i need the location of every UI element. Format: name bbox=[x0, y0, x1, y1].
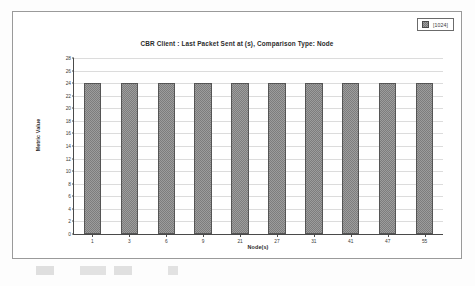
bar[interactable] bbox=[158, 83, 175, 234]
bar[interactable] bbox=[121, 83, 138, 234]
bar[interactable] bbox=[84, 83, 101, 234]
chart-legend[interactable]: [1024] bbox=[417, 18, 454, 31]
plot-area: 0246810121416182022242628 13692127314147… bbox=[73, 58, 443, 235]
chart-title: CBR Client : Last Packet Sent at (s), Co… bbox=[13, 40, 461, 47]
x-tick-mark bbox=[240, 234, 241, 237]
bar[interactable] bbox=[305, 83, 322, 234]
y-tick-label: 4 bbox=[68, 206, 71, 211]
y-tick-label: 0 bbox=[68, 232, 71, 237]
x-tick-mark bbox=[314, 234, 315, 237]
scan-artifact bbox=[28, 266, 208, 275]
legend-entry-label: [1024] bbox=[433, 22, 448, 28]
y-tick-label: 10 bbox=[66, 169, 71, 174]
x-tick-mark bbox=[203, 234, 204, 237]
x-tick-mark bbox=[351, 234, 352, 237]
y-tick-label: 18 bbox=[66, 118, 71, 123]
y-tick-label: 22 bbox=[66, 93, 71, 98]
x-tick-mark bbox=[92, 234, 93, 237]
y-tick-label: 28 bbox=[66, 56, 71, 61]
bar[interactable] bbox=[268, 83, 285, 234]
scanned-page: [1024] CBR Client : Last Packet Sent at … bbox=[0, 0, 475, 286]
chart-panel: [1024] CBR Client : Last Packet Sent at … bbox=[12, 11, 462, 259]
bar[interactable] bbox=[231, 83, 248, 234]
x-axis-title: Node(s) bbox=[73, 244, 443, 250]
x-tick-mark bbox=[166, 234, 167, 237]
y-tick-label: 14 bbox=[66, 144, 71, 149]
bars-layer bbox=[74, 58, 443, 234]
y-tick-label: 26 bbox=[66, 68, 71, 73]
y-tick-label: 6 bbox=[68, 194, 71, 199]
y-tick-label: 8 bbox=[68, 181, 71, 186]
x-tick-mark bbox=[425, 234, 426, 237]
bar[interactable] bbox=[416, 83, 433, 234]
y-tick-label: 16 bbox=[66, 131, 71, 136]
x-tick-mark bbox=[388, 234, 389, 237]
y-tick-label: 24 bbox=[66, 81, 71, 86]
legend-swatch-icon bbox=[422, 21, 429, 28]
x-tick-mark bbox=[277, 234, 278, 237]
y-tick-label: 2 bbox=[68, 219, 71, 224]
y-axis-title: Metric Value bbox=[35, 119, 41, 152]
bar[interactable] bbox=[342, 83, 359, 234]
y-tick-label: 20 bbox=[66, 106, 71, 111]
x-tick-mark bbox=[129, 234, 130, 237]
bar[interactable] bbox=[194, 83, 211, 234]
bar[interactable] bbox=[379, 83, 396, 234]
y-tick-label: 12 bbox=[66, 156, 71, 161]
